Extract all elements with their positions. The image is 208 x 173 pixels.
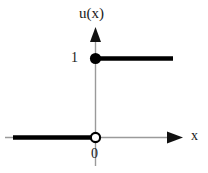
- closed-point-marker: [90, 53, 101, 64]
- open-point-marker: [91, 133, 100, 142]
- figure-title: u(x): [79, 6, 104, 21]
- y-axis-arrowhead: [90, 27, 101, 42]
- origin-tick-label: 0: [91, 147, 98, 161]
- step-function-figure: u(x) 1 0 x: [0, 0, 208, 173]
- x-axis-label: x: [191, 129, 198, 143]
- plot-canvas: [0, 0, 208, 173]
- x-axis-arrowhead: [167, 132, 183, 144]
- y-axis-tick-label-1: 1: [71, 51, 78, 65]
